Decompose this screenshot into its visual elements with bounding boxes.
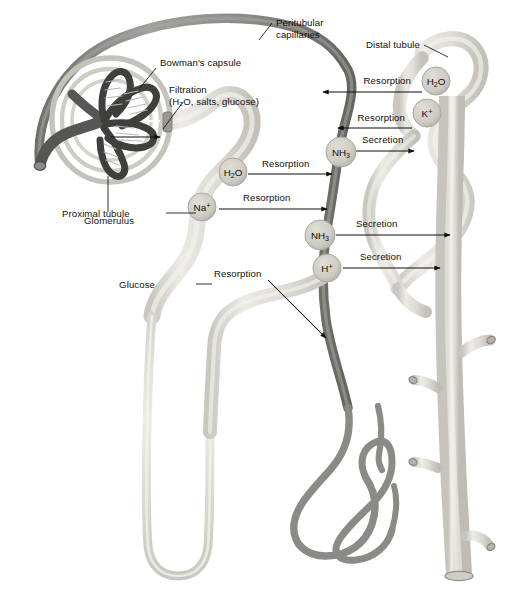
label-glucose: Glucose: [119, 279, 155, 290]
filtration-slit: [163, 112, 172, 132]
label-bowmans-capsule: Bowman's capsule: [160, 57, 241, 68]
capillary-stub: [378, 406, 382, 470]
nephron-illustration: H2O K+ NH3 H2O Na+ NH3 H+ Resorption Res…: [0, 0, 517, 614]
label-resorption-na-plus: Resorption: [243, 192, 290, 203]
arteriole-opening: [34, 162, 46, 170]
label-peritubular-capillaries-line1: Peritubular: [276, 17, 324, 28]
label-resorption-h2o-distal: Resorption: [364, 75, 411, 86]
collecting-duct-opening: [445, 571, 473, 580]
label-peritubular-capillaries-line2: capillaries: [276, 29, 320, 40]
label-secretion-h-plus: Secretion: [360, 251, 401, 262]
label-proximal-tubule: Proximal tubule: [62, 208, 130, 219]
nephron-diagram-figure: H2O K+ NH3 H2O Na+ NH3 H+ Resorption Res…: [0, 0, 517, 614]
label-secretion-nh3-upper: Secretion: [362, 134, 403, 145]
label-resorption-glucose: Resorption: [214, 268, 261, 279]
label-filtration-line1: Filtration: [169, 84, 207, 95]
label-filtration-line2: (H₂O, salts, glucose): [169, 96, 259, 107]
label-secretion-nh3-lower: Secretion: [356, 218, 397, 229]
label-resorption-k-plus: Resorption: [358, 112, 405, 123]
label-distal-tubule: Distal tubule: [366, 39, 420, 50]
label-resorption-h2o-proximal: Resorption: [262, 158, 309, 169]
